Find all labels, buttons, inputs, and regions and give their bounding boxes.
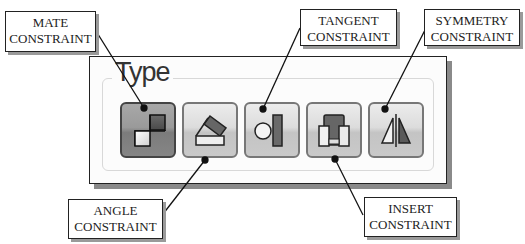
tangent-constraint-button[interactable] [244, 102, 300, 158]
symmetry-constraint-icon [370, 104, 422, 156]
angle-constraint-icon [184, 104, 236, 156]
insert-constraint-button[interactable] [306, 102, 362, 158]
constraint-type-panel: Type [89, 56, 447, 184]
symmetry-constraint-button[interactable] [368, 102, 424, 158]
tangent-constraint-icon [246, 104, 298, 156]
insert-constraint-icon [308, 104, 360, 156]
mate-constraint-icon [122, 104, 174, 156]
symmetry-constraint-callout: SYMMETRY CONSTRAINT [424, 9, 520, 46]
type-group-title: Type [112, 58, 173, 86]
mate-constraint-callout: MATE CONSTRAINT [5, 11, 96, 52]
mate-constraint-button[interactable] [120, 102, 176, 158]
tangent-constraint-callout: TANGENT CONSTRAINT [300, 9, 397, 46]
insert-constraint-callout: INSERT CONSTRAINT [364, 197, 457, 237]
angle-constraint-callout: ANGLE CONSTRAINT [68, 199, 163, 239]
angle-constraint-button[interactable] [182, 102, 238, 158]
